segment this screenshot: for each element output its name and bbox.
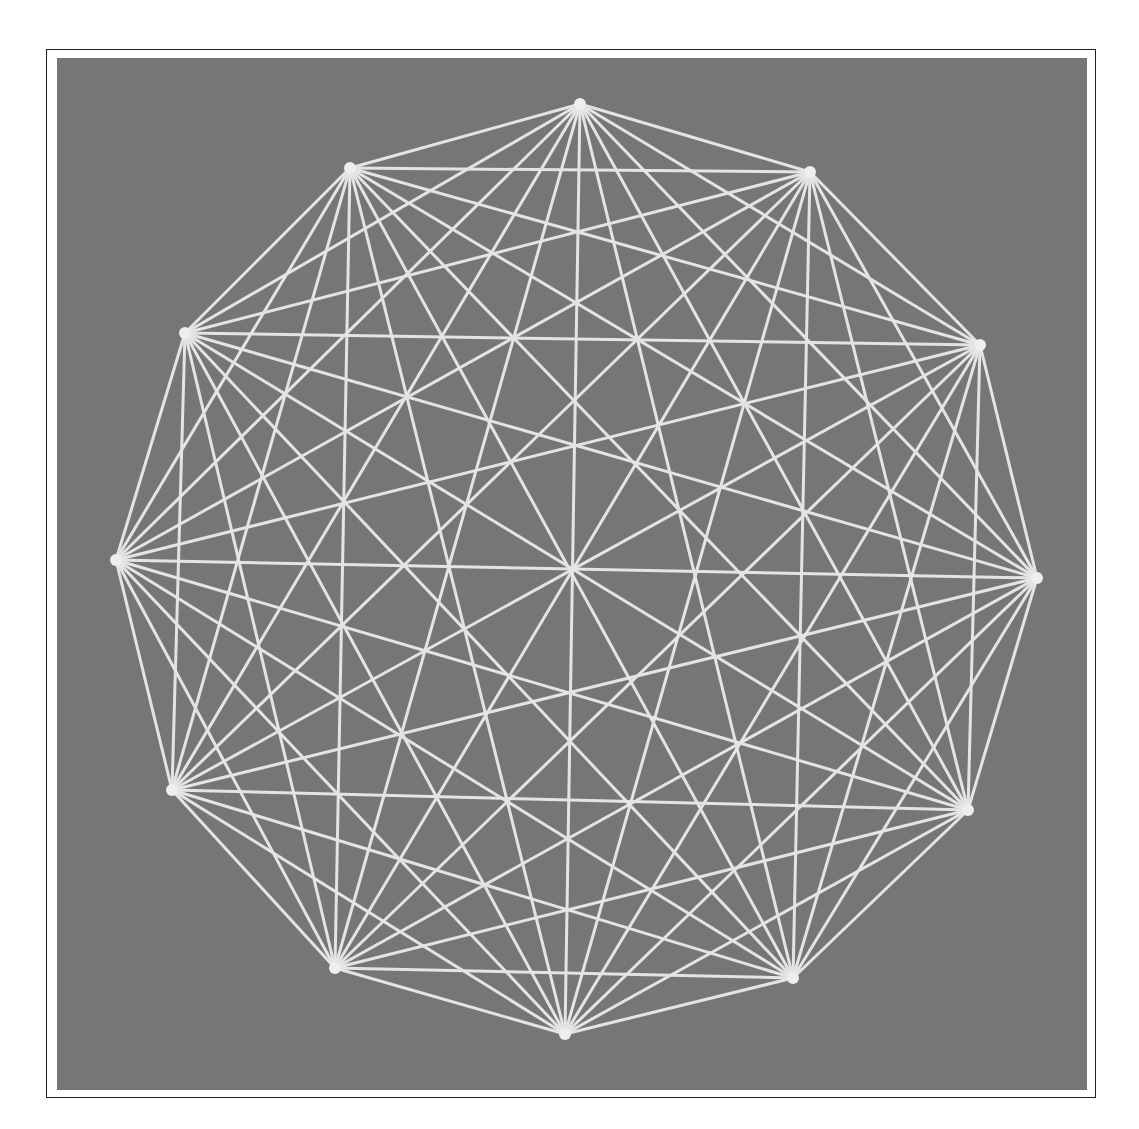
graph-vertex (1031, 572, 1043, 584)
graph-edge (350, 168, 565, 1034)
graph-edge (116, 560, 335, 968)
graph-vertex (787, 972, 799, 984)
graph-edge (185, 172, 810, 333)
graph-edge (980, 345, 1037, 578)
graph-edge (565, 810, 968, 1034)
graph-edge (172, 172, 810, 790)
graph-vertex (804, 166, 816, 178)
graph-edge (185, 333, 980, 345)
graph-edge (185, 333, 335, 968)
graph-edge (335, 968, 565, 1034)
graph-vertex (962, 804, 974, 816)
graph-vertex (974, 339, 986, 351)
graph-edge (335, 168, 350, 968)
graph-vertex (110, 554, 122, 566)
graph-edge (350, 168, 810, 172)
graph-edges (116, 104, 1037, 1034)
graph-vertex (166, 784, 178, 796)
graph-vertex (179, 327, 191, 339)
graph-edge (565, 978, 793, 1034)
graph-vertex (559, 1028, 571, 1040)
graph-edge (350, 168, 980, 345)
graph-vertex (344, 162, 356, 174)
graph-edge (116, 560, 172, 790)
graph-edge (185, 333, 1037, 578)
graph-edge (335, 968, 793, 978)
graph-vertex (574, 98, 586, 110)
complete-graph-diagram (0, 0, 1139, 1129)
graph-vertex (329, 962, 341, 974)
graph-edge (580, 104, 793, 978)
